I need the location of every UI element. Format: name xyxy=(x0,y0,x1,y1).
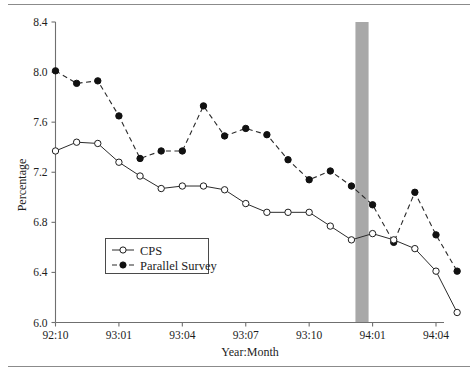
data-point xyxy=(137,173,143,179)
x-tick-label: 93:10 xyxy=(296,329,322,341)
data-point xyxy=(95,140,101,146)
highlight-band xyxy=(355,22,368,323)
data-point xyxy=(179,148,185,154)
data-point xyxy=(73,80,79,86)
legend-marker-cps xyxy=(120,247,126,253)
x-tick-label: 93:04 xyxy=(169,329,195,341)
data-point xyxy=(306,209,312,215)
data-point xyxy=(116,159,122,165)
data-point xyxy=(454,309,460,315)
data-point xyxy=(116,113,122,119)
data-point xyxy=(137,155,143,161)
data-point xyxy=(391,237,397,243)
data-point xyxy=(264,209,270,215)
x-tick-label: 93:07 xyxy=(233,329,259,341)
y-tick-label: 6.0 xyxy=(33,317,48,329)
data-point xyxy=(412,189,418,195)
line-chart: 6.06.46.87.27.68.08.4 92:1093:0193:0493:… xyxy=(0,0,476,379)
data-point xyxy=(348,237,354,243)
data-point xyxy=(179,183,185,189)
legend-marker-parallel-survey xyxy=(120,262,126,268)
x-tick-label: 93:01 xyxy=(106,329,132,341)
y-tick-label: 7.2 xyxy=(33,166,48,178)
y-tick-group: 6.06.46.87.27.68.08.4 xyxy=(33,16,55,329)
data-point xyxy=(52,68,58,74)
y-tick-label: 6.8 xyxy=(33,216,48,228)
y-axis: 6.06.46.87.27.68.08.4 xyxy=(33,16,55,329)
x-tick-group: 92:1093:0193:0493:0793:1094:0194:04 xyxy=(42,323,449,341)
data-point xyxy=(221,133,227,139)
data-point xyxy=(200,183,206,189)
data-point xyxy=(158,148,164,154)
data-point xyxy=(369,202,375,208)
data-point xyxy=(454,268,460,274)
figure-page: 6.06.46.87.27.68.08.4 92:1093:0193:0493:… xyxy=(0,0,476,379)
data-point xyxy=(327,168,333,174)
data-point xyxy=(243,125,249,131)
legend-label-parallel-survey: Parallel Survey xyxy=(140,259,217,273)
y-tick-label: 8.0 xyxy=(33,66,48,78)
data-point xyxy=(306,177,312,183)
data-point xyxy=(369,230,375,236)
data-point xyxy=(95,78,101,84)
legend: CPS Parallel Survey xyxy=(106,239,218,274)
data-point xyxy=(327,223,333,229)
chart-annotations xyxy=(355,22,368,323)
x-tick-label: 94:01 xyxy=(359,329,385,341)
legend-label-cps: CPS xyxy=(140,244,162,258)
y-tick-label: 6.4 xyxy=(33,266,48,278)
data-point xyxy=(158,185,164,191)
x-tick-label: 92:10 xyxy=(42,329,68,341)
series-line-cps xyxy=(56,142,458,312)
y-tick-label: 8.4 xyxy=(33,16,48,28)
data-point xyxy=(52,148,58,154)
data-point xyxy=(73,139,79,145)
data-point xyxy=(433,268,439,274)
series-markers-cps xyxy=(52,139,460,316)
x-axis: 92:1093:0193:0493:0793:1094:0194:04 xyxy=(42,323,449,341)
data-point xyxy=(264,131,270,137)
data-point xyxy=(285,209,291,215)
data-point xyxy=(243,200,249,206)
x-tick-label: 94:04 xyxy=(423,329,449,341)
data-point xyxy=(433,232,439,238)
data-point xyxy=(348,183,354,189)
data-point xyxy=(200,103,206,109)
y-axis-title: Percentage xyxy=(15,159,29,212)
data-point xyxy=(221,187,227,193)
series-group xyxy=(52,68,460,316)
x-axis-title: Year:Month xyxy=(221,345,278,359)
y-tick-label: 7.6 xyxy=(33,116,48,128)
data-point xyxy=(285,157,291,163)
data-point xyxy=(412,245,418,251)
